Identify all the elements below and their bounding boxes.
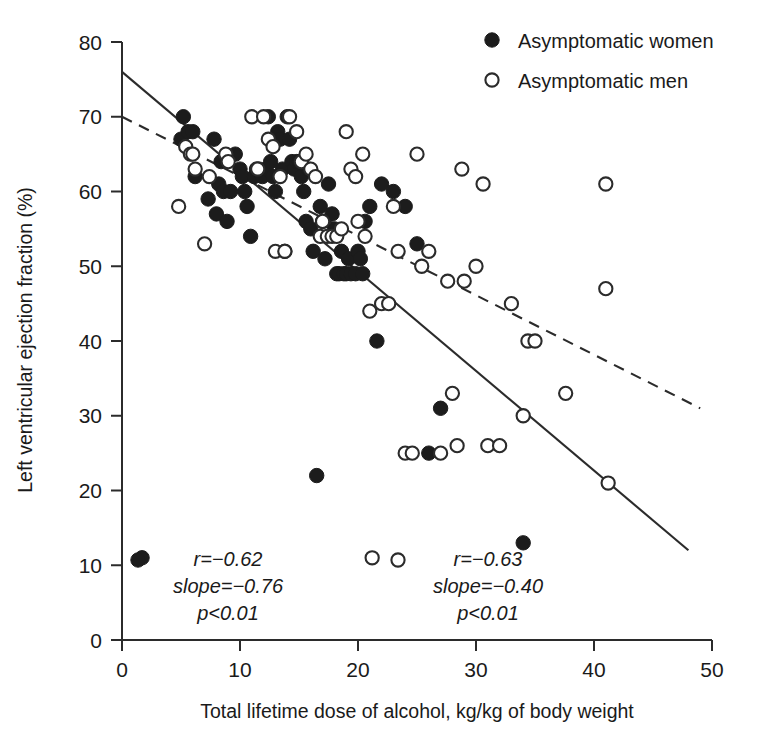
- data-point-men: [266, 140, 279, 153]
- data-point-women: [363, 199, 377, 213]
- men-stats-line: r=−0.63: [454, 548, 523, 570]
- data-point-men: [366, 551, 379, 564]
- data-point-women: [356, 267, 370, 281]
- data-point-men: [335, 222, 348, 235]
- y-tick-label: 10: [79, 554, 102, 577]
- y-tick-label: 70: [79, 105, 102, 128]
- data-point-men: [186, 148, 199, 161]
- data-point-men: [415, 260, 428, 273]
- data-point-men: [406, 447, 419, 460]
- data-point-men: [340, 125, 353, 138]
- y-tick-label: 40: [79, 330, 102, 353]
- y-tick-label: 50: [79, 255, 102, 278]
- x-tick-label: 30: [464, 658, 487, 681]
- data-point-men: [356, 148, 369, 161]
- y-tick-label: 80: [79, 31, 102, 54]
- data-point-men: [358, 230, 371, 243]
- data-point-men: [493, 439, 506, 452]
- data-point-women: [220, 214, 234, 228]
- annotation-marker-women: [131, 553, 145, 567]
- y-tick-label: 30: [79, 404, 102, 427]
- data-point-men: [274, 170, 287, 183]
- y-tick-label: 20: [79, 479, 102, 502]
- y-tick-label: 0: [90, 629, 102, 652]
- men-regression: [122, 117, 700, 409]
- data-points: [135, 110, 615, 565]
- data-point-women: [370, 334, 384, 348]
- data-point-men: [392, 245, 405, 258]
- x-tick-label: 0: [116, 658, 128, 681]
- chart-canvas: 0102030405060708001020304050 Left ventri…: [0, 0, 769, 743]
- data-point-men: [387, 200, 400, 213]
- legend: Asymptomatic womenAsymptomatic men: [485, 30, 714, 92]
- data-point-women: [268, 184, 282, 198]
- x-tick-label: 10: [228, 658, 251, 681]
- stat-annotations: r=−0.62slope=−0.76p<0.01r=−0.63slope=−0.…: [131, 548, 543, 624]
- data-point-men: [363, 305, 376, 318]
- data-point-men: [299, 148, 312, 161]
- data-point-men: [198, 237, 211, 250]
- data-point-men: [505, 297, 518, 310]
- data-point-women: [238, 184, 252, 198]
- data-point-women: [297, 184, 311, 198]
- data-point-men: [451, 439, 464, 452]
- data-point-men: [349, 170, 362, 183]
- data-point-men: [278, 245, 291, 258]
- data-point-women: [201, 192, 215, 206]
- annotation-marker-men: [391, 553, 404, 566]
- data-point-men: [351, 215, 364, 228]
- data-point-men: [559, 387, 572, 400]
- women-stats-line: p<0.01: [196, 602, 259, 624]
- women-stats-line: slope=−0.76: [173, 575, 284, 597]
- data-point-women: [353, 252, 367, 266]
- legend-marker-men: [485, 73, 498, 86]
- data-point-women: [176, 110, 190, 124]
- legend-marker-women: [485, 33, 499, 47]
- data-point-women: [386, 184, 400, 198]
- data-point-men: [528, 334, 541, 347]
- data-point-women: [310, 468, 324, 482]
- data-point-men: [455, 162, 468, 175]
- data-point-men: [283, 110, 296, 123]
- data-point-men: [257, 110, 270, 123]
- data-point-women: [243, 229, 257, 243]
- data-point-men: [599, 177, 612, 190]
- y-tick-label: 60: [79, 180, 102, 203]
- data-point-men: [599, 282, 612, 295]
- data-point-men: [316, 215, 329, 228]
- y-axis-title-text: Left ventricular ejection fraction (%): [14, 187, 36, 493]
- scatter-plot-figure: 0102030405060708001020304050 Left ventri…: [0, 0, 769, 743]
- legend-label-men: Asymptomatic men: [518, 70, 688, 92]
- data-point-women: [433, 401, 447, 415]
- y-axis-title: Left ventricular ejection fraction (%): [14, 187, 36, 493]
- data-point-women: [207, 132, 221, 146]
- data-point-women: [223, 184, 237, 198]
- x-axis-title: Total lifetime dose of alcohol, kg/kg of…: [200, 700, 634, 722]
- data-point-men: [382, 297, 395, 310]
- data-point-men: [602, 476, 615, 489]
- data-point-men: [476, 177, 489, 190]
- data-point-men: [172, 200, 185, 213]
- data-point-men: [309, 170, 322, 183]
- women-stats-line: r=−0.62: [194, 548, 263, 570]
- data-point-men: [441, 275, 454, 288]
- data-point-women: [321, 177, 335, 191]
- data-point-women: [318, 252, 332, 266]
- data-point-men: [410, 148, 423, 161]
- data-point-men: [446, 387, 459, 400]
- data-point-men: [469, 260, 482, 273]
- data-point-men: [222, 155, 235, 168]
- legend-label-women: Asymptomatic women: [518, 30, 714, 52]
- x-tick-label: 20: [346, 658, 369, 681]
- data-point-men: [290, 125, 303, 138]
- x-tick-label: 50: [700, 658, 723, 681]
- x-axis-title-text: Total lifetime dose of alcohol, kg/kg of…: [200, 700, 634, 722]
- data-point-women: [186, 125, 200, 139]
- men-stats-line: p<0.01: [456, 602, 519, 624]
- data-point-men: [458, 275, 471, 288]
- data-point-men: [517, 409, 530, 422]
- data-point-men: [189, 162, 202, 175]
- men-stats-line: slope=−0.40: [433, 575, 543, 597]
- data-point-women: [240, 199, 254, 213]
- x-tick-label: 40: [582, 658, 605, 681]
